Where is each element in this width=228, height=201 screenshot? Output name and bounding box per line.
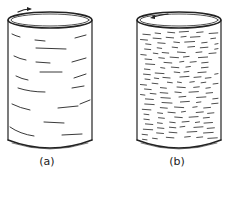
- panel-label-a: (a): [27, 155, 67, 168]
- cylinder-a: [8, 7, 92, 149]
- two-cylinder-diagram: (a) (b): [0, 0, 228, 201]
- cylinders-svg: [0, 0, 228, 201]
- panel-label-b: (b): [157, 155, 197, 168]
- rotation-arrow-right-icon: [18, 7, 32, 12]
- cylinder-b: [137, 12, 221, 149]
